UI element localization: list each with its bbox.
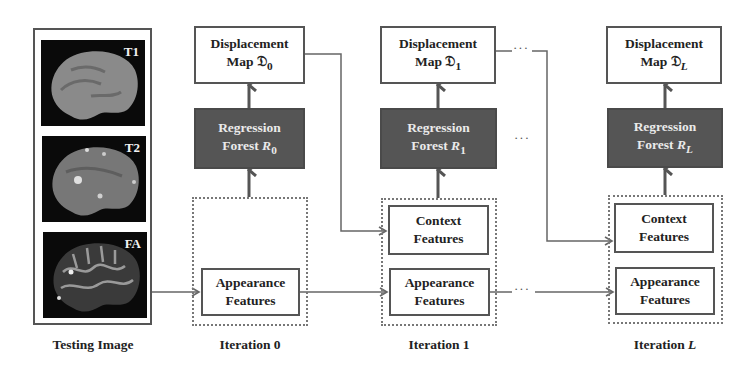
ellipsis-forest: ··· [514, 130, 530, 146]
displacement-map-1-line2: Map 𝔇1 [415, 53, 461, 75]
displacement-map-1: Displacement Map 𝔇1 [380, 26, 496, 84]
appearance-features-0-line2: Features [226, 292, 276, 310]
context-features-1-line2: Features [414, 230, 464, 248]
displacement-map-0-line2: Map 𝔇0 [227, 53, 273, 75]
appearance-features-0-line1: Appearance [216, 274, 286, 292]
displacement-map-0-line1: Displacement [211, 35, 289, 53]
ellipsis-displacement: ··· [513, 40, 529, 56]
testing-image-frame: T1 T2 FA [33, 28, 152, 325]
appearance-features-1-line1: Appearance [405, 274, 475, 292]
regression-forest-0: Regression Forest R0 [194, 108, 305, 169]
appearance-features-L-line2: Features [640, 291, 690, 309]
regression-forest-L-line1: Regression [634, 118, 697, 136]
appearance-features-1-line2: Features [415, 292, 465, 310]
context-features-L-line2: Features [639, 228, 689, 246]
regression-forest-L-line2: Forest RL [637, 136, 693, 158]
regression-forest-1-line1: Regression [407, 119, 470, 137]
displacement-map-L: Displacement Map 𝔇L [606, 26, 722, 84]
iteration-0-caption: Iteration 0 [190, 337, 310, 353]
regression-forest-L: Regression Forest RL [607, 108, 723, 168]
appearance-features-L-line1: Appearance [630, 273, 700, 291]
iteration-1-caption: Iteration 1 [378, 337, 500, 353]
displacement-map-1-line1: Displacement [399, 35, 477, 53]
context-features-1: Context Features [388, 205, 489, 255]
mri-t1-image: T1 [41, 40, 145, 126]
context-features-L-line1: Context [641, 210, 687, 228]
regression-forest-1: Regression Forest R1 [380, 108, 497, 169]
mri-label-t1: T1 [124, 44, 139, 60]
mri-label-fa: FA [125, 236, 141, 252]
mri-label-t2: T2 [125, 140, 140, 156]
regression-forest-0-line1: Regression [218, 119, 281, 137]
appearance-features-1: Appearance Features [389, 268, 490, 316]
appearance-features-L: Appearance Features [615, 267, 715, 315]
ellipsis-appearance: ··· [514, 281, 530, 297]
testing-image-caption: Testing Image [28, 337, 158, 353]
regression-forest-1-line2: Forest R1 [411, 137, 466, 159]
displacement-map-L-line1: Displacement [625, 35, 703, 53]
mri-fa-image: FA [43, 232, 147, 318]
mri-t2-image: T2 [42, 136, 146, 222]
displacement-map-L-line2: Map 𝔇L [640, 53, 687, 75]
displacement-map-0: Displacement Map 𝔇0 [194, 26, 305, 84]
context-features-L: Context Features [614, 203, 714, 253]
appearance-features-0: Appearance Features [201, 268, 300, 316]
regression-forest-0-line2: Forest R0 [222, 137, 277, 159]
iteration-L-caption: Iteration L [604, 337, 726, 353]
context-features-1-line1: Context [416, 212, 462, 230]
